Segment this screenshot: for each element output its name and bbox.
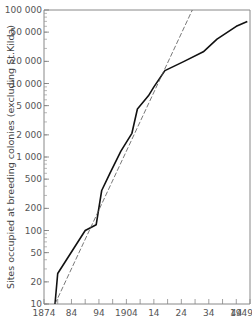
y-tick-label: 1 000 <box>16 152 42 162</box>
x-tick-label: 34 <box>203 308 215 318</box>
y-tick-label: 2 000 <box>16 130 42 140</box>
x-tick-label: 24 <box>176 308 188 318</box>
y-tick-label: 200 <box>25 203 42 213</box>
trend-line <box>55 10 192 304</box>
line-chart: 1020501002005001 0002 0005 00010 00020 0… <box>0 0 252 320</box>
y-tick-label: 100 <box>25 226 42 236</box>
x-tick-label: 1904 <box>115 308 138 318</box>
chart-container: 1020501002005001 0002 0005 00010 00020 0… <box>0 0 252 320</box>
x-tick-label: 94 <box>93 308 105 318</box>
plot-frame <box>44 10 250 304</box>
y-axis-label: Sites occupied at breeding colonies (exc… <box>5 17 19 297</box>
x-tick-label: 84 <box>66 308 78 318</box>
x-tick-label: 14 <box>148 308 160 318</box>
y-tick-label: 50 <box>31 248 43 258</box>
y-tick-label: 5 000 <box>16 101 42 111</box>
data-line <box>55 21 247 304</box>
y-tick-label: 100 000 <box>5 5 42 15</box>
y-tick-label: 500 <box>25 174 42 184</box>
x-tick-label: 1949 <box>230 308 252 318</box>
x-tick-label: 1874 <box>33 308 56 318</box>
y-tick-label: 20 <box>31 277 43 287</box>
